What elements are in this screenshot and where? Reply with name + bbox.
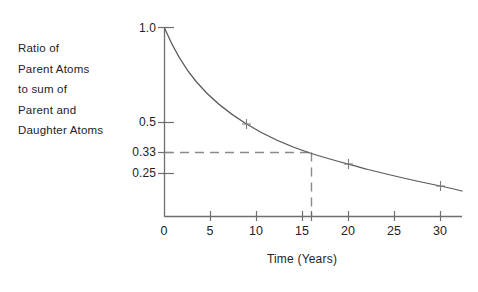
y-tick-marks: [158, 28, 174, 174]
decay-curve-figure: Ratio of Parent Atoms to sum of Parent a…: [0, 0, 478, 292]
data-marker-t10: [242, 119, 251, 129]
axes-group: [165, 27, 463, 217]
data-marker-t30: [436, 181, 445, 191]
decay-curve: [165, 28, 312, 156]
guide-lines-group: [165, 153, 312, 218]
decay-curve-line: [165, 28, 463, 191]
plot-svg: [0, 0, 478, 292]
data-marker-t20: [344, 159, 353, 169]
